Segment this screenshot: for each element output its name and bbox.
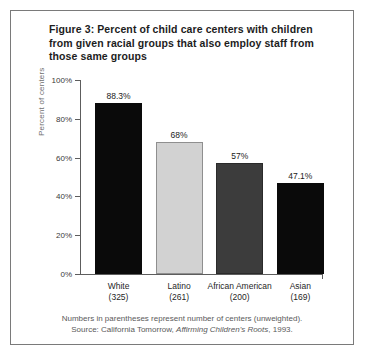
y-tick-mark: [75, 80, 80, 81]
category-count: (169): [263, 292, 338, 303]
x-axis-end-tick: [322, 274, 323, 279]
bar-value-label: 57%: [231, 151, 248, 161]
bar: 88.3%: [95, 103, 142, 274]
y-axis-title: Percent of centers: [37, 122, 46, 136]
source-title: Affirming Children's Roots: [176, 325, 268, 334]
figure-frame: Figure 3: Percent of child care centers …: [10, 10, 354, 345]
y-tick-label: 40%: [56, 192, 72, 201]
y-tick-mark: [75, 274, 80, 275]
category-label: Asian(169): [263, 281, 338, 303]
bar: 57%: [216, 163, 263, 274]
y-tick-mark: [75, 235, 80, 236]
bar-value-label: 68%: [171, 130, 188, 140]
source-prefix: Source: California Tomorrow,: [71, 325, 176, 334]
y-tick-label: 20%: [56, 231, 72, 240]
y-tick-label: 100%: [52, 76, 72, 85]
x-axis-line: [80, 274, 323, 275]
category-name: Asian: [263, 281, 338, 292]
bar: 47.1%: [277, 183, 324, 274]
y-axis-line: [80, 80, 81, 275]
y-tick-label: 0%: [60, 270, 72, 279]
source-line: Source: California Tomorrow, Affirming C…: [11, 324, 353, 335]
source-suffix: , 1993.: [268, 325, 292, 334]
y-tick-label: 80%: [56, 114, 72, 123]
figure-title: Figure 3: Percent of child care centers …: [49, 23, 317, 64]
footnote-line: Numbers in parentheses represent number …: [11, 313, 353, 324]
y-tick-mark: [75, 158, 80, 159]
y-tick-label: 60%: [56, 153, 72, 162]
footnotes: Numbers in parentheses represent number …: [11, 313, 353, 335]
y-tick-mark: [75, 196, 80, 197]
y-tick-mark: [75, 119, 80, 120]
plot-area: 0%20%40%60%80%100% 88.3%68%57%47.1% Whit…: [80, 80, 323, 274]
bar-value-label: 88.3%: [106, 91, 130, 101]
bar-value-label: 47.1%: [288, 171, 312, 181]
bar: 68%: [156, 142, 203, 274]
